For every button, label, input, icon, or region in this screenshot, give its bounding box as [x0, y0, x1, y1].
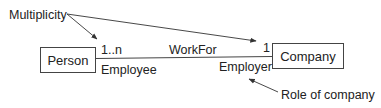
uml-diagram: Person Company 1..n WorkFor 1 Employee E… [0, 0, 381, 108]
class-person[interactable]: Person [41, 48, 96, 73]
target-multiplicity: 1 [263, 41, 270, 55]
source-multiplicity: 1..n [101, 43, 122, 57]
role-arrow [249, 79, 278, 92]
role-annotation: Role of company [281, 88, 376, 102]
association-name: WorkFor [169, 43, 217, 57]
target-role: Employer [219, 60, 272, 74]
multiplicity-arrow-right [67, 14, 256, 41]
multiplicity-annotation: Multiplicity [9, 8, 67, 22]
class-company-name: Company [280, 49, 336, 64]
class-company[interactable]: Company [273, 44, 344, 69]
class-person-name: Person [47, 53, 88, 68]
source-role: Employee [101, 63, 157, 77]
